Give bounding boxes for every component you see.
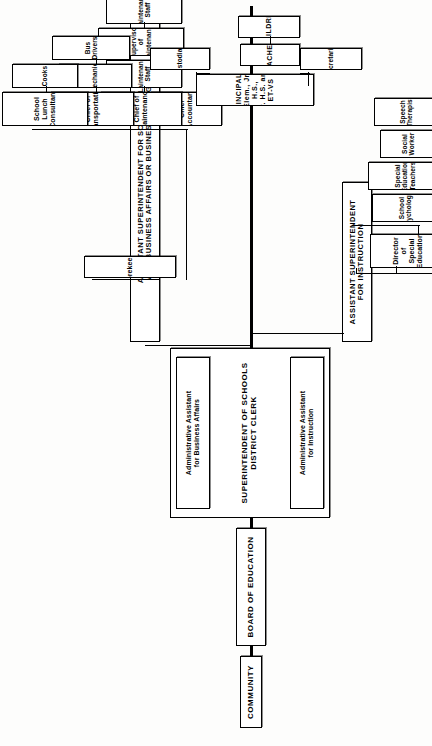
special-education-children-bus-v [352,225,420,226]
special-education-tie [396,266,397,274]
node-speech-therapist: Speech Therapist [374,98,432,126]
special-education-children-bus [418,226,419,234]
node-admin-assistant-instruction: Administrative Assistant for Instruction [290,357,324,509]
lunch-to-cooks-connector [46,86,47,92]
instruction-branch-bus [378,273,432,274]
node-maintenance-staff-2: Maintenance Staff [106,0,182,24]
node-custodians: Custodians [150,48,210,70]
principals-to-secretaries-connector [300,73,310,74]
node-teachers: TEACHERS [240,44,300,66]
transportation-to-bus-drivers-connector [96,58,97,64]
node-school-lunch-consultant: School Lunch Consultant [2,92,88,126]
business-sub-bus-vertical [32,129,188,130]
supervisor-to-staff-connector [144,22,145,28]
node-secretaries: Secretaries [300,48,362,70]
node-board-of-education: BOARD OF EDUCATION [236,528,266,646]
node-children: CHILDREN [238,16,300,38]
superintendent-to-business-connector [145,345,251,346]
business-sub-bus-horizontal [186,130,187,280]
instruction-branch-bus-upper [356,273,380,274]
node-asst-supt-instruction: ASSISTANT SUPERINTENDENT FOR INSTRUCTION [342,182,372,342]
node-bus-drivers: Bus Drivers [52,36,130,60]
node-director-special-education: Director of Special Education [370,234,432,268]
transportation-to-mechanics-connector [96,86,97,92]
node-admin-assistant-business: Administrative Assistant for Business Af… [176,357,210,509]
chief-maintenance-to-staff-connector [144,86,145,92]
principals-to-secretaries-h [308,72,309,86]
business-branch-bus [92,279,160,280]
node-special-education-teachers: Special Education Teachers [368,162,432,190]
node-community: COMMUNITY [240,656,262,728]
teachers-to-children-connector [270,36,271,44]
org-chart-canvas: COMMUNITY BOARD OF EDUCATION SUPERINTEND… [0,0,432,746]
principals-to-custodians-connector [196,73,210,74]
node-school-psychologist: School Psychologist [372,194,432,222]
node-social-worker: Social Worker [380,130,432,158]
superintendent-to-instruction-connector [252,333,344,334]
node-cooks: Cooks [12,64,78,88]
node-principals: PRINCIPALS: Elem., Jr. H.S., Sr. H.S. an… [196,74,314,106]
node-storekeeper: Storekeeper [84,256,176,278]
principals-to-custodians-h [196,72,197,86]
